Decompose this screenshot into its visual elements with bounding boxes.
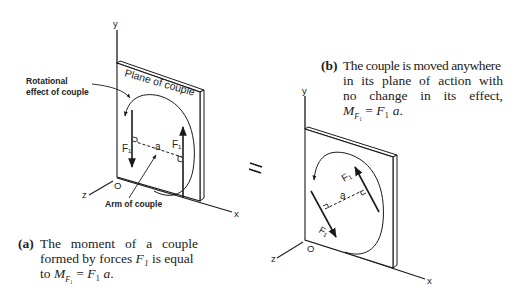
z-axis — [89, 181, 113, 195]
y-axis-label: y — [113, 18, 118, 29]
arm-of-couple-callout: Arm of couple — [105, 199, 162, 209]
z-axis-label: z — [271, 253, 276, 264]
caption-b-line1: The couple is moved anywhere — [343, 58, 503, 73]
caption-b: (b) The couple is moved anywhere in its … — [321, 58, 511, 122]
caption-a-line3: to MF₁ = F₁ a. — [40, 266, 198, 287]
force-left-label: F₁ — [122, 143, 132, 154]
caption-a-line1: The moment of a couple — [40, 236, 198, 251]
caption-a: (a) The moment of a couple formed by for… — [18, 236, 198, 286]
caption-a-tag: (a) — [18, 236, 34, 251]
arm-label: a — [155, 141, 161, 152]
z-axis — [277, 242, 303, 258]
plane-plate-side — [393, 155, 397, 268]
force-right-label: F₁ — [172, 139, 182, 150]
plane-of-couple-plate-side — [200, 90, 204, 201]
panel-a-diagram: Plane of couple F₁ F₁ a y x z O Rotation… — [26, 18, 239, 219]
caption-b-tag: (b) — [321, 58, 338, 73]
equals-sign — [249, 163, 262, 173]
origin-label: O — [307, 243, 314, 254]
caption-a-line2: formed by forces F₁ is equal — [40, 251, 198, 266]
z-axis-label: z — [82, 189, 87, 200]
caption-b-line4: MF₁ = F₁ a. — [343, 103, 503, 124]
y-axis-label: y — [302, 85, 307, 96]
caption-b-line2: in its plane of action with — [343, 73, 503, 88]
rotational-effect-callout-line1: Rotational — [26, 76, 68, 86]
x-axis-label: x — [427, 275, 432, 286]
x-axis-label: x — [234, 208, 239, 219]
rotational-effect-callout-line2: effect of couple — [26, 87, 89, 97]
caption-b-line3: no change in its effect, — [343, 88, 503, 103]
arm-label: a — [340, 190, 346, 201]
origin-label: O — [114, 180, 121, 191]
